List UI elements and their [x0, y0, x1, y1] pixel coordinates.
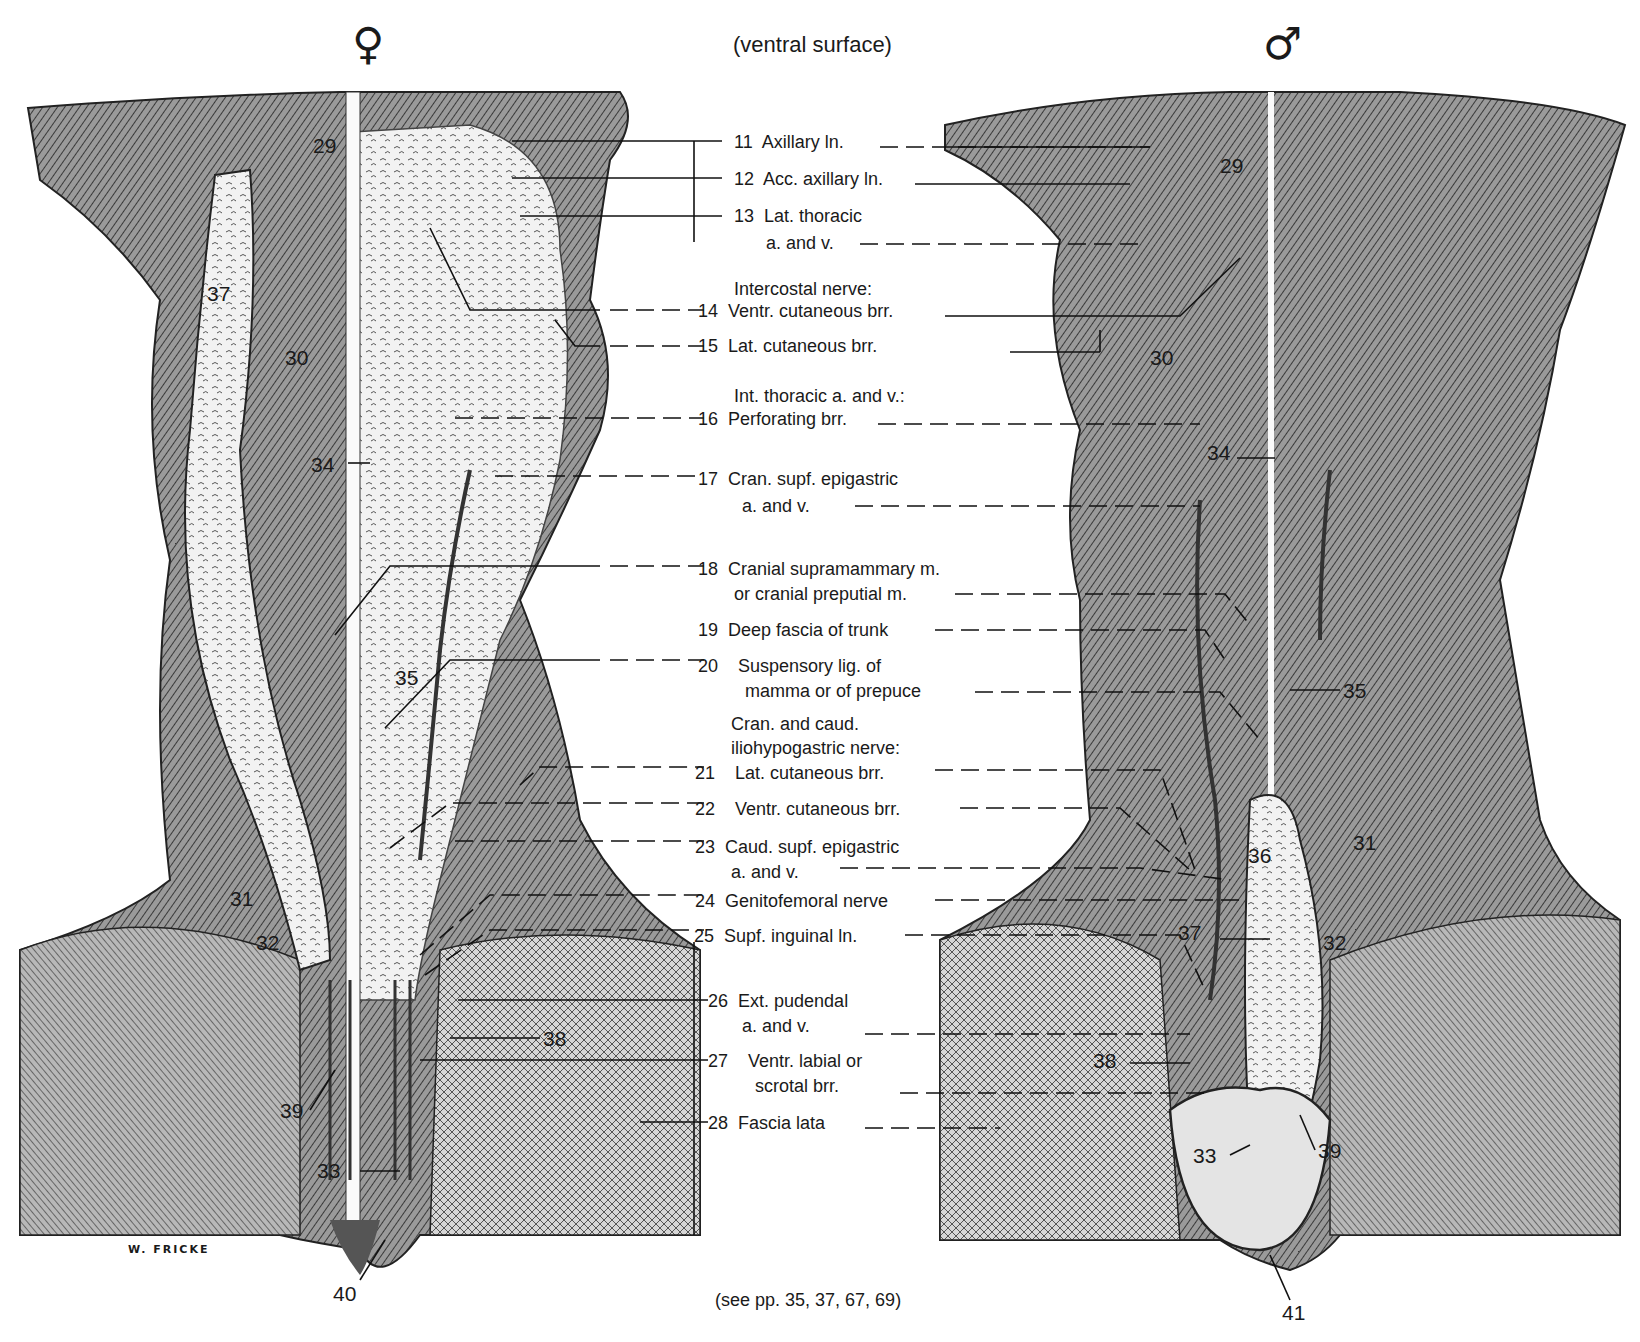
- legend-item-12: 12 Acc. axillary ln.: [734, 168, 883, 190]
- legend-heading-intercostal: Intercostal nerve:: [734, 278, 872, 300]
- legend-item-17-line2: a. and v.: [742, 495, 810, 517]
- legend-item-11: 11 Axillary ln.: [734, 131, 844, 153]
- legend-heading-cran-caud: Cran. and caud.: [731, 713, 859, 735]
- female-symbol: ♀: [352, 22, 384, 66]
- legend-item-22: 22 Ventr. cutaneous brr.: [695, 798, 900, 820]
- label-34: 34: [1207, 442, 1230, 463]
- legend-item-19: 19 Deep fascia of trunk: [698, 619, 888, 641]
- legend-item-18-line2: or cranial preputial m.: [734, 583, 907, 605]
- label-33: 33: [1193, 1145, 1216, 1166]
- diagram-title: (ventral surface): [733, 32, 892, 58]
- legend-item-28: 28 Fascia lata: [708, 1112, 825, 1134]
- legend-item-15: 15 Lat. cutaneous brr.: [698, 335, 877, 357]
- male-symbol: ♂: [1263, 22, 1302, 66]
- label-29: 29: [1220, 155, 1243, 176]
- legend-item-18: 18 Cranial supramammary m.: [698, 558, 940, 580]
- label-30: 30: [1150, 347, 1173, 368]
- legend-item-16: 16 Perforating brr.: [698, 408, 847, 430]
- legend-item-25: 25 Supf. inguinal ln.: [694, 925, 857, 947]
- page-reference-caption: (see pp. 35, 37, 67, 69): [715, 1290, 901, 1311]
- legend-heading-int-thoracic: Int. thoracic a. and v.:: [734, 385, 905, 407]
- label-40: 40: [333, 1283, 356, 1304]
- legend-item-14: 14 Ventr. cutaneous brr.: [698, 300, 893, 322]
- artist-signature: W. FRICKE: [128, 1243, 209, 1256]
- label-37: 37: [207, 283, 230, 304]
- legend-item-20-line2: mamma or of prepuce: [745, 680, 921, 702]
- legend-item-23: 23 Caud. supf. epigastric: [695, 836, 899, 858]
- legend-item-27: 27 Ventr. labial or: [708, 1050, 862, 1072]
- label-39: 39: [1318, 1140, 1341, 1161]
- label-36: 36: [1248, 845, 1271, 866]
- legend-item-13: 13 Lat. thoracic: [734, 205, 862, 227]
- legend-item-24: 24 Genitofemoral nerve: [695, 890, 888, 912]
- label-30: 30: [285, 347, 308, 368]
- label-35: 35: [395, 667, 418, 688]
- label-35: 35: [1343, 680, 1366, 701]
- label-32: 32: [1323, 932, 1346, 953]
- legend-item-26-line2: a. and v.: [742, 1015, 810, 1037]
- label-37: 37: [1178, 922, 1201, 943]
- label-29: 29: [313, 135, 336, 156]
- label-33: 33: [317, 1160, 340, 1181]
- label-32: 32: [256, 932, 279, 953]
- label-41: 41: [1282, 1302, 1305, 1323]
- label-31: 31: [1353, 832, 1376, 853]
- label-38: 38: [543, 1028, 566, 1049]
- legend-item-13-line2: a. and v.: [766, 232, 834, 254]
- label-39: 39: [280, 1100, 303, 1121]
- label-34: 34: [311, 454, 334, 475]
- label-38: 38: [1093, 1050, 1116, 1071]
- legend-item-20: 20 Suspensory lig. of: [698, 655, 881, 677]
- female-figure: [20, 92, 700, 1275]
- legend-heading-iliohypogastric: iliohypogastric nerve:: [731, 737, 900, 759]
- legend-item-17: 17 Cran. supf. epigastric: [698, 468, 898, 490]
- legend-item-23-line2: a. and v.: [731, 861, 799, 883]
- legend-item-21: 21 Lat. cutaneous brr.: [695, 762, 884, 784]
- label-31: 31: [230, 888, 253, 909]
- legend-item-27-line2: scrotal brr.: [755, 1075, 839, 1097]
- legend-item-26: 26 Ext. pudendal: [708, 990, 848, 1012]
